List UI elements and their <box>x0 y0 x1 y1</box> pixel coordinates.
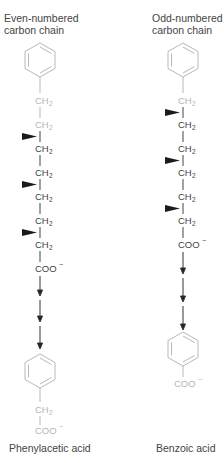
svg-text:2: 2 <box>192 100 196 107</box>
svg-text:2: 2 <box>192 172 196 179</box>
down-arrows-icon <box>181 252 186 330</box>
left-carboxylate: COO <box>35 263 57 274</box>
beta-oxidation-diagram: Even-numbered carbon chain CH 2 CH 2 CH … <box>0 0 224 463</box>
left-ch2-faded-2: CH <box>35 119 49 130</box>
left-ch2-6: CH <box>35 239 49 250</box>
right-ch2-faded: CH <box>178 95 192 106</box>
svg-text:2: 2 <box>49 148 53 155</box>
right-ch2-6: CH <box>178 215 192 226</box>
svg-text:−: − <box>59 423 63 430</box>
right-ch2-3: CH <box>178 143 192 154</box>
left-title-line2: carbon chain <box>4 24 64 36</box>
svg-text:2: 2 <box>192 124 196 131</box>
right-title-line2: carbon chain <box>152 24 212 36</box>
svg-text:2: 2 <box>49 244 53 251</box>
product-benzene-ring-icon <box>168 332 198 377</box>
right-title-line1: Odd-numbered <box>152 12 223 24</box>
svg-text:2: 2 <box>49 409 53 416</box>
product-carboxylate: COO <box>174 378 196 389</box>
left-product-label: Phenylacetic acid <box>9 442 91 454</box>
left-ch2-3: CH <box>35 143 49 154</box>
right-column: Odd-numbered carbon chain CH 2 CH 2 CH 2… <box>152 12 223 454</box>
svg-text:2: 2 <box>49 124 53 131</box>
right-product-label: Benzoic acid <box>156 442 216 454</box>
right-carboxylate: COO <box>178 239 200 250</box>
benzene-ring-icon <box>168 43 198 93</box>
svg-text:2: 2 <box>49 100 53 107</box>
svg-text:2: 2 <box>192 148 196 155</box>
right-ch2-4: CH <box>178 167 192 178</box>
right-ch2-5: CH <box>178 191 192 202</box>
benzene-ring-icon <box>25 43 55 93</box>
down-arrows-icon <box>38 276 43 349</box>
svg-text:2: 2 <box>49 220 53 227</box>
svg-text:2: 2 <box>49 196 53 203</box>
left-ch2-extra: CH <box>35 215 49 226</box>
left-title-line1: Even-numbered <box>4 12 79 24</box>
svg-text:2: 2 <box>192 220 196 227</box>
left-column: Even-numbered carbon chain CH 2 CH 2 CH … <box>4 12 91 454</box>
svg-text:−: − <box>59 261 63 268</box>
svg-text:2: 2 <box>49 172 53 179</box>
product-ch2: CH <box>35 404 49 415</box>
svg-text:−: − <box>202 237 206 244</box>
product-carboxylate: COO <box>35 425 57 436</box>
svg-text:2: 2 <box>192 196 196 203</box>
left-ch2-4: CH <box>35 167 49 178</box>
left-ch2-5: CH <box>35 191 49 202</box>
left-ch2-faded-1: CH <box>35 95 49 106</box>
svg-text:−: − <box>198 376 202 383</box>
right-ch2-2: CH <box>178 119 192 130</box>
